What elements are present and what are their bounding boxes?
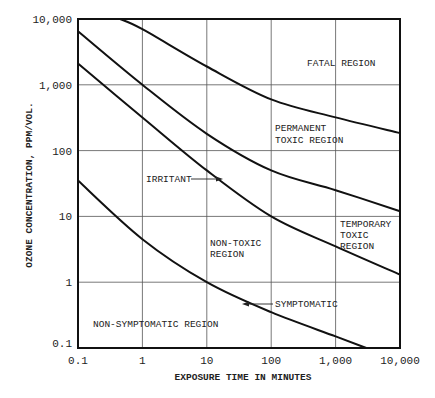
ozone-exposure-chart: 0.11101001,00010,000 0.11101001,00010,00… xyxy=(0,0,435,398)
y-tick-label: 1,000 xyxy=(39,80,72,92)
x-tick-label: 10 xyxy=(200,355,213,367)
label-temporary-toxic-3: REGION xyxy=(340,241,374,252)
y-tick-label: 1 xyxy=(65,277,72,289)
y-axis-label: OZONE CONCENTRATION, PPM/VOL. xyxy=(24,102,35,267)
label-permanent-toxic-2: TOXIC REGION xyxy=(275,135,343,146)
x-tick-label: 100 xyxy=(261,355,281,367)
label-non-symptomatic: NON-SYMPTOMATIC REGION xyxy=(93,319,218,330)
label-symptomatic: SYMPTOMATIC xyxy=(275,299,338,310)
y-tick-label: 10,000 xyxy=(32,14,72,26)
x-tick-label: 1 xyxy=(139,355,146,367)
label-irritant: IRRITANT xyxy=(146,174,192,185)
x-tick-label: 1,000 xyxy=(319,355,352,367)
y-tick-label: 0.1 xyxy=(52,338,72,350)
label-temporary-toxic-2: TOXIC xyxy=(340,230,369,241)
label-permanent-toxic-1: PERMANENT xyxy=(275,123,327,134)
x-tick-label: 0.1 xyxy=(68,355,88,367)
x-axis-label: EXPOSURE TIME IN MINUTES xyxy=(175,372,312,383)
label-temporary-toxic-1: TEMPORARY xyxy=(340,219,392,230)
x-tick-labels: 0.11101001,00010,000 xyxy=(68,355,420,367)
label-non-toxic-2: REGION xyxy=(210,249,244,260)
x-tick-label: 10,000 xyxy=(380,355,420,367)
y-tick-labels: 0.11101001,00010,000 xyxy=(32,14,72,350)
y-tick-label: 10 xyxy=(59,211,72,223)
label-fatal-region: FATAL REGION xyxy=(307,58,375,69)
label-non-toxic-1: NON-TOXIC xyxy=(210,238,262,249)
y-tick-label: 100 xyxy=(52,146,72,158)
fatal-boundary-curve xyxy=(120,19,400,133)
